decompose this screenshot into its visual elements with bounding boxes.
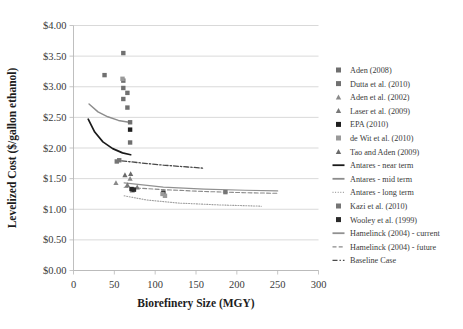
legend-marker-square-icon: [336, 204, 341, 209]
data-point: [121, 86, 125, 90]
legend-item-hamelinck-2004-current[interactable]: Hamelinck (2004) - current: [333, 229, 441, 238]
legend-label: Antares - mid term: [350, 175, 413, 184]
y-tick-label-8: $4.00: [43, 20, 67, 31]
data-point: [128, 120, 132, 124]
legend-item-wooley-et-al-1999[interactable]: Wooley et al. (1999): [336, 216, 417, 225]
x-tick-label-0: 0: [71, 279, 76, 290]
legend-item-de-wit-et-al-2010[interactable]: de Wit et al. (2010): [336, 134, 414, 143]
data-point: [125, 91, 129, 95]
x-tick-label-6: 300: [311, 279, 327, 290]
data-point: [128, 127, 132, 131]
data-point: [120, 77, 124, 81]
data-point: [121, 97, 125, 101]
legend-label: de Wit et al. (2010): [350, 134, 414, 143]
legend-item-antares-long-term[interactable]: Antares - long term: [333, 188, 415, 197]
legend-marker-square-icon: [336, 81, 341, 86]
data-point: [163, 194, 167, 198]
y-tick-label-7: $3.50: [43, 51, 67, 62]
legend-marker-square-icon: [336, 136, 341, 141]
legend-marker-triangle-icon: [336, 149, 341, 154]
levelized-cost-vs-biorefinery-size-chart: $0.00$0.50$1.00$1.50$2.00$2.50$3.00$3.50…: [0, 0, 463, 329]
legend-label: Hamelinck (2004) - current: [350, 229, 441, 238]
legend-marker-triangle-icon: [336, 95, 341, 100]
marker-series-tao-and-aden-2009: [122, 171, 133, 177]
legend-label: Baseline Case: [350, 256, 397, 265]
x-tick-label-4: 200: [229, 279, 245, 290]
data-point: [128, 140, 132, 144]
legend-item-epa-2010[interactable]: EPA (2010): [336, 120, 388, 129]
marker-series-wooley-et-al-1999: [129, 187, 136, 192]
line-series-antares-near-term: [88, 119, 130, 155]
x-tick-label-2: 100: [147, 279, 163, 290]
marker-series-dutta-et-al-2010: [102, 51, 129, 110]
legend-label: Kazi et al. (2010): [350, 202, 408, 211]
legend: Aden (2008)Dutta et al. (2010)Aden et al…: [333, 66, 441, 265]
legend-item-dutta-et-al-2010[interactable]: Dutta et al. (2010): [336, 80, 410, 89]
legend-label: Laser et al. (2009): [350, 107, 410, 116]
legend-label: Antares - near term: [350, 161, 414, 170]
y-tick-label-0: $0.00: [43, 265, 67, 276]
y-tick-label-6: $3.00: [43, 81, 67, 92]
data-point: [128, 171, 133, 176]
legend-item-aden-et-al-2002[interactable]: Aden et al. (2002): [336, 93, 410, 102]
line-series-hamelinck-2004-current: [124, 183, 278, 191]
legend-item-baseline-case[interactable]: Baseline Case: [333, 256, 397, 265]
legend-label: Tao and Aden (2009): [350, 148, 420, 157]
data-point: [121, 51, 125, 55]
y-axis-title: Levelized Cost ($/gallon ethanol): [6, 67, 19, 228]
legend-label: Aden et al. (2002): [350, 93, 410, 102]
y-tick-labels: $0.00$0.50$1.00$1.50$2.00$2.50$3.00$3.50…: [43, 20, 74, 276]
legend-item-antares-near-term[interactable]: Antares - near term: [333, 161, 415, 170]
data-point: [117, 158, 121, 162]
legend-item-tao-and-aden-2009[interactable]: Tao and Aden (2009): [336, 148, 420, 157]
x-tick-label-5: 250: [270, 279, 286, 290]
legend-label: EPA (2010): [350, 120, 388, 129]
legend-label: Hamelinck (2004) - future: [350, 243, 437, 252]
data-point: [132, 187, 136, 191]
legend-label: Dutta et al. (2010): [350, 80, 410, 89]
legend-item-kazi-et-al-2010[interactable]: Kazi et al. (2010): [336, 202, 408, 211]
legend-item-laser-et-al-2009[interactable]: Laser et al. (2009): [336, 107, 410, 116]
line-series-baseline-case: [122, 161, 204, 168]
x-tick-label-1: 50: [109, 279, 120, 290]
data-point: [122, 172, 127, 177]
gridlines: [74, 26, 319, 271]
data-point: [113, 180, 118, 185]
y-tick-label-2: $1.00: [43, 204, 67, 215]
y-tick-label-4: $2.00: [43, 143, 67, 154]
chart-canvas: $0.00$0.50$1.00$1.50$2.00$2.50$3.00$3.50…: [0, 0, 463, 329]
y-tick-label-5: $2.50: [43, 112, 67, 123]
line-series-group: [88, 104, 277, 206]
legend-label: Aden (2008): [350, 66, 392, 75]
legend-label: Wooley et al. (1999): [350, 216, 417, 225]
legend-marker-square-icon: [336, 122, 341, 127]
x-tick-label-3: 150: [188, 279, 204, 290]
legend-marker-square-icon: [336, 68, 341, 73]
data-point: [102, 73, 106, 77]
marker-series-group: [102, 51, 227, 198]
legend-marker-triangle-icon: [336, 108, 341, 113]
x-tick-labels: 050100150200250300: [71, 271, 327, 290]
legend-label: Antares - long term: [350, 188, 415, 197]
legend-item-antares-mid-term[interactable]: Antares - mid term: [333, 175, 413, 184]
line-series-antares-mid-term: [89, 104, 129, 122]
y-tick-label-1: $0.50: [43, 234, 67, 245]
x-axis-title: Biorefinery Size (MGY): [137, 297, 254, 310]
data-point: [125, 105, 129, 109]
data-point: [223, 190, 227, 194]
y-tick-label-3: $1.50: [43, 173, 67, 184]
legend-marker-square-icon: [336, 217, 341, 222]
line-series-antares-long-term: [124, 196, 261, 206]
legend-item-hamelinck-2004-future[interactable]: Hamelinck (2004) - future: [333, 243, 437, 252]
legend-item-aden-2008[interactable]: Aden (2008): [336, 66, 392, 75]
marker-series-aden-2008: [128, 120, 132, 145]
